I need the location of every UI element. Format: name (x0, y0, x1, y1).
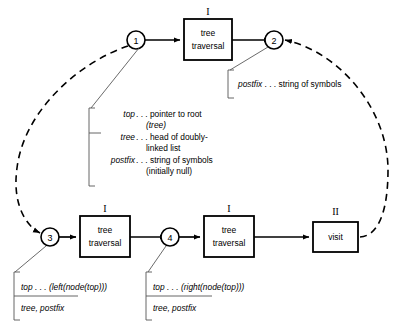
annotation-postfix-top-var: postfix (237, 79, 263, 89)
annotation-postfix-top-rest: . . . string of symbols (262, 79, 341, 89)
annotation-center-text-4: linked list (146, 143, 181, 153)
box-line1: visit (328, 232, 343, 242)
bracket-postfix-top (228, 70, 234, 98)
annotation-left-bottom-line2: tree, postfix (21, 303, 65, 313)
box-line1: tree (98, 225, 113, 235)
box-line1: tree (201, 28, 216, 38)
annotation-center-text-5: . . . string of symbols (136, 155, 213, 165)
annotation-center-text-2: (tree) (146, 120, 166, 130)
leader-line-center-block (91, 48, 139, 108)
box-line1: tree (222, 225, 237, 235)
box-roman-label: I (227, 203, 230, 214)
box-roman-label: II (332, 206, 339, 217)
diagram-svg: I tree traversal I tree traversal I tree… (0, 0, 400, 330)
annotation-right-bottom-line1: top . . . (right(node(top))) (153, 282, 244, 292)
box-line2: traversal (192, 41, 225, 51)
edge-node1-to-node3-dashed (16, 46, 128, 233)
annotation-right-bottom-line2: tree, postfix (153, 303, 197, 313)
bracket-center-block (89, 108, 95, 186)
annotation-center-var-1: top (123, 109, 135, 119)
node-label: 2 (271, 36, 276, 46)
box-tree-traversal-2[interactable]: I tree traversal (80, 203, 130, 257)
node-circle-2[interactable]: 2 (265, 31, 283, 49)
node-circle-4[interactable]: 4 (161, 228, 179, 246)
annotation-center-var-2: tree (121, 132, 136, 142)
box-tree-traversal-3[interactable]: I tree traversal (204, 203, 254, 257)
node-label: 1 (133, 36, 138, 46)
box-tree-traversal-1[interactable]: I tree traversal (184, 6, 232, 60)
leader-line-postfix-top (230, 47, 268, 70)
leader-line-right-bottom (148, 246, 166, 272)
annotation-center-text-3: . . . head of doubly- (136, 132, 208, 142)
annotation-center-text-1: . . . pointer to root (136, 109, 202, 119)
annotation-left-bottom-line1: top . . . (left(node(top))) (21, 282, 107, 292)
leader-line-left-bottom (15, 246, 46, 272)
diagram-canvas: I tree traversal I tree traversal I tree… (0, 0, 400, 330)
annotation-postfix-top: postfix . . . string of symbols (237, 79, 341, 89)
node-label: 4 (167, 233, 172, 243)
node-label: 3 (47, 233, 52, 243)
annotation-center-text-6: (initially null) (146, 166, 192, 176)
box-roman-label: I (206, 6, 209, 17)
box-roman-label: I (103, 203, 106, 214)
box-line2: traversal (89, 238, 122, 248)
annotation-center-var-3: postfix (110, 155, 136, 165)
node-circle-1[interactable]: 1 (127, 31, 145, 49)
box-line2: traversal (213, 238, 246, 248)
box-visit[interactable]: II visit (313, 206, 358, 252)
node-circle-3[interactable]: 3 (41, 228, 59, 246)
